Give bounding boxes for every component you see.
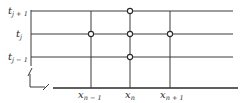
finite-difference-grid-diagram: tj + 1 tj tj − 1 xn − 1 xn xn + 1 [0,0,250,103]
row-label-t-j-plus-1: tj + 1 [8,5,28,18]
node-x-n-minus-1-t-j [88,31,93,36]
row-label-t-j: tj [16,28,22,41]
node-x-n-t-j-minus-1 [127,54,132,59]
node-x-n-t-j-plus-1 [127,8,132,13]
node-x-n-t-j [127,31,132,36]
col-label-x-n-minus-1: xn − 1 [78,89,102,102]
row-label-t-j-minus-1: tj − 1 [8,51,28,64]
col-label-x-n: xn [125,89,135,102]
grid-svg: tj + 1 tj tj − 1 xn − 1 xn xn + 1 [0,0,250,103]
col-label-x-n-plus-1: xn + 1 [160,89,184,102]
node-x-n-plus-1-t-j [167,31,172,36]
